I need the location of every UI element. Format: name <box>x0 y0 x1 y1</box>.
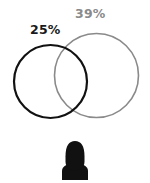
venn-diagram-figure: 25% 39% <box>0 0 150 183</box>
venn-circle-left <box>14 45 87 118</box>
right-set-percent-label: 39% <box>75 6 106 21</box>
person-icon <box>62 141 88 180</box>
venn-diagram-canvas <box>0 0 150 183</box>
left-set-percent-label: 25% <box>30 22 61 37</box>
venn-circle-right <box>55 34 139 118</box>
